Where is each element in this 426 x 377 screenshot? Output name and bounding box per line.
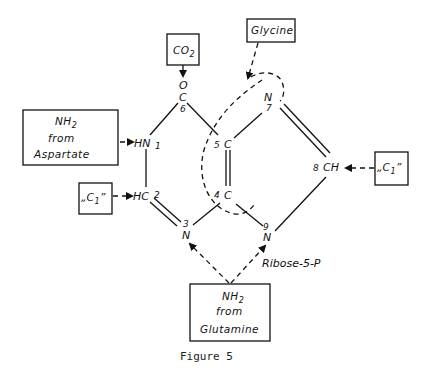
atom-n7-number: 7 [266, 103, 272, 113]
glycine-source-box: Glycine [202, 19, 295, 214]
atom-c2-number: 2 [154, 190, 160, 200]
atom-n3: N [182, 229, 190, 242]
svg-text:from: from [48, 132, 75, 144]
atom-n1: HN [134, 137, 151, 150]
aspartate-source-box: NH2 from Aspartate [23, 110, 133, 165]
c1-left-source-box: „C1” [79, 183, 132, 214]
svg-text:Glycine: Glycine [251, 24, 294, 36]
ring-bonds [146, 103, 330, 231]
atom-c5: C [224, 138, 232, 151]
atom-c2: HC [133, 190, 149, 203]
atom-n3-number: 3 [183, 219, 189, 229]
atom-c4: C [224, 189, 232, 202]
svg-text:from: from [216, 305, 243, 317]
svg-text:Aspartate: Aspartate [33, 148, 90, 160]
co2-source-box: CO2 [167, 34, 199, 76]
atom-n9: N [263, 231, 271, 244]
svg-text:Glutamine: Glutamine [200, 323, 259, 335]
ring-atoms: O C 6 HN 1 HC 2 3 N 4 C 5 C N 7 8 CH 9 N… [133, 79, 339, 270]
atom-c4-number: 4 [214, 190, 220, 200]
atom-c8-number: 8 [313, 163, 319, 173]
purine-biosynthesis-diagram: O C 6 HN 1 HC 2 3 N 4 C 5 C N 7 8 CH 9 N… [0, 0, 426, 377]
atom-c6: C [179, 91, 187, 104]
c1-right-source-box: „C1” [346, 152, 408, 185]
ribose-5-p-label: Ribose-5-P [262, 257, 321, 270]
atom-n1-number: 1 [155, 141, 161, 151]
atom-c6-number: 6 [180, 104, 186, 114]
figure-caption: Figure 5 [180, 350, 233, 363]
atom-c8: CH [323, 161, 339, 174]
glutamine-source-box: NH2 from Glutamine [190, 244, 270, 341]
atom-c5-number: 5 [214, 140, 220, 150]
